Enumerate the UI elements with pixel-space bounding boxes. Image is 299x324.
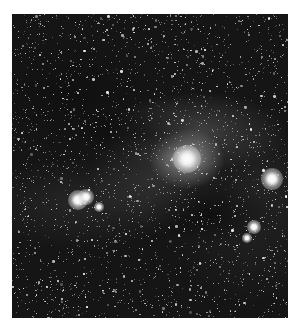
bright-star bbox=[261, 168, 283, 190]
bright-star bbox=[242, 233, 252, 243]
bright-star bbox=[247, 220, 261, 234]
bright-star bbox=[78, 189, 94, 205]
bright-stars bbox=[12, 14, 288, 318]
bright-star bbox=[94, 202, 104, 212]
nebula-photograph bbox=[12, 14, 288, 318]
bright-star bbox=[173, 145, 201, 173]
